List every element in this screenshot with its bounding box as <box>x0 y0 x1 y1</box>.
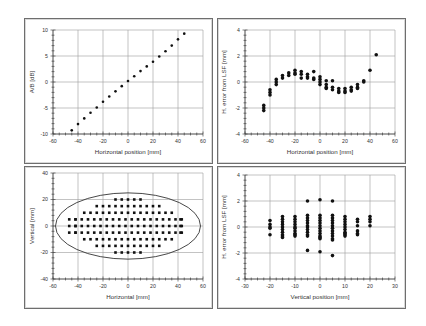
y-tick-label: 20 <box>42 196 48 202</box>
data-point <box>174 225 177 228</box>
x-tick-label: -60 <box>241 138 249 144</box>
data-point <box>68 218 71 221</box>
x-tick-label: -40 <box>74 138 82 144</box>
y-tick-label: -4 <box>235 276 240 282</box>
data-point <box>356 233 360 237</box>
data-point <box>299 72 303 76</box>
data-point <box>164 211 167 214</box>
data-point <box>70 129 73 132</box>
data-point <box>368 220 372 224</box>
data-point <box>137 218 140 221</box>
data-point <box>368 224 372 228</box>
data-point <box>356 220 360 224</box>
x-tick-label: -60 <box>49 138 57 144</box>
y-axis-label: Vertical [mm] <box>28 208 35 244</box>
data-point <box>120 245 123 248</box>
data-point <box>112 225 115 228</box>
data-point <box>155 231 158 234</box>
data-point <box>102 100 105 103</box>
data-point <box>68 225 71 228</box>
y-axis-label: A/B [dB] <box>28 70 35 93</box>
x-tick-label: 30 <box>392 283 398 289</box>
data-point <box>93 225 96 228</box>
data-point <box>143 225 146 228</box>
data-point <box>130 225 133 228</box>
data-point <box>133 198 136 201</box>
data-point <box>108 205 111 208</box>
data-point <box>155 218 158 221</box>
data-point <box>83 211 86 214</box>
data-point <box>293 72 297 76</box>
data-point <box>268 219 272 223</box>
data-point <box>331 79 335 83</box>
data-point <box>118 218 121 221</box>
data-point <box>331 254 335 258</box>
data-point <box>306 76 310 80</box>
data-point <box>168 231 171 234</box>
data-point <box>130 231 133 234</box>
data-point <box>174 218 177 221</box>
data-point <box>114 90 117 93</box>
x-tick-label: -40 <box>74 283 82 289</box>
data-point <box>137 225 140 228</box>
data-point <box>99 225 102 228</box>
data-point <box>77 123 80 126</box>
x-tick-label: 0 <box>319 283 322 289</box>
data-point <box>93 231 96 234</box>
data-point <box>179 231 182 234</box>
data-point <box>133 211 136 214</box>
data-point <box>168 225 171 228</box>
y-tick-label: -4 <box>235 131 240 137</box>
data-point <box>127 211 130 214</box>
data-point <box>179 225 182 228</box>
data-point <box>164 238 167 241</box>
x-tick-label: 40 <box>367 138 373 144</box>
x-axis-label: Horizontal [mm] <box>106 293 150 300</box>
data-point <box>306 199 310 203</box>
data-point <box>318 83 322 87</box>
y-tick-label: -5 <box>43 105 48 111</box>
data-point <box>137 231 140 234</box>
data-point <box>133 238 136 241</box>
data-point <box>145 238 148 241</box>
data-point <box>99 231 102 234</box>
chart-tr: -60-40-200204060-4-2024Horizontal positi… <box>220 27 398 155</box>
data-point <box>331 199 335 203</box>
data-point <box>95 238 98 241</box>
y-tick-label: 0 <box>237 79 240 85</box>
data-point <box>318 237 322 241</box>
x-tick-label: -20 <box>99 138 107 144</box>
data-point <box>108 245 111 248</box>
data-point <box>139 205 142 208</box>
data-point <box>114 211 117 214</box>
data-point <box>268 227 272 231</box>
data-point <box>143 218 146 221</box>
data-point <box>83 238 86 241</box>
data-point <box>155 225 158 228</box>
data-point <box>130 218 133 221</box>
data-point <box>112 218 115 221</box>
y-tick-label: -20 <box>41 249 49 255</box>
x-tick-label: 10 <box>342 283 348 289</box>
x-tick-label: 0 <box>127 138 130 144</box>
data-point <box>120 251 123 254</box>
data-point <box>139 251 142 254</box>
data-point <box>179 218 182 221</box>
data-point <box>124 231 127 234</box>
data-point <box>293 234 297 238</box>
x-tick-label: -40 <box>266 138 274 144</box>
data-point <box>133 245 136 248</box>
data-point <box>83 117 86 120</box>
x-tick-label: 20 <box>367 283 373 289</box>
data-point <box>164 50 167 53</box>
data-point <box>299 76 303 80</box>
data-point <box>118 225 121 228</box>
data-point <box>262 109 266 113</box>
x-tick-label: -20 <box>99 283 107 289</box>
data-point <box>343 234 347 238</box>
data-point <box>343 91 347 95</box>
y-tick-label: 0 <box>45 79 48 85</box>
data-point <box>281 236 285 240</box>
data-point <box>102 211 105 214</box>
data-point <box>152 211 155 214</box>
